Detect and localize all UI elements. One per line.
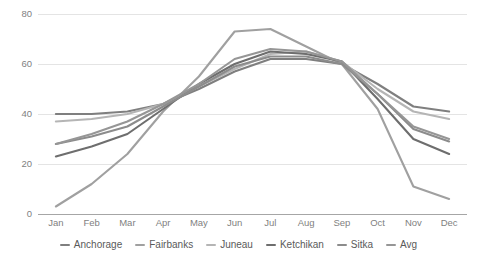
legend-item-anchorage[interactable]: Anchorage xyxy=(60,240,122,250)
x-tick-label-may: May xyxy=(179,218,219,228)
series-lines xyxy=(38,14,467,214)
legend-item-sitka[interactable]: Sitka xyxy=(337,240,373,250)
x-tick-label-apr: Apr xyxy=(143,218,183,228)
x-tick-label-jun: Jun xyxy=(215,218,255,228)
y-tick-label-80: 80 xyxy=(6,9,32,19)
series-line-sitka xyxy=(56,57,449,145)
x-axis: JanFebMarAprMayJunJulAugSepOctNovDec xyxy=(38,216,467,232)
legend-label: Avg xyxy=(400,240,417,250)
x-tick-label-feb: Feb xyxy=(72,218,112,228)
x-tick-label-sep: Sep xyxy=(322,218,362,228)
y-tick-label-40: 40 xyxy=(6,109,32,119)
legend-label: Ketchikan xyxy=(280,240,324,250)
x-tick-label-oct: Oct xyxy=(358,218,398,228)
legend-item-fairbanks[interactable]: Fairbanks xyxy=(135,240,193,250)
x-tick-label-nov: Nov xyxy=(393,218,433,228)
series-line-fairbanks xyxy=(56,29,449,207)
y-tick-label-20: 20 xyxy=(6,159,32,169)
x-tick-label-jul: Jul xyxy=(250,218,290,228)
legend-item-ketchikan[interactable]: Ketchikan xyxy=(266,240,324,250)
x-tick-label-mar: Mar xyxy=(107,218,147,228)
x-tick-label-jan: Jan xyxy=(36,218,76,228)
legend-swatch-icon xyxy=(386,244,396,246)
legend-label: Juneau xyxy=(220,240,253,250)
legend-item-juneau[interactable]: Juneau xyxy=(206,240,253,250)
line-chart: 020406080 JanFebMarAprMayJunJulAugSepOct… xyxy=(0,0,477,263)
x-tick-label-dec: Dec xyxy=(429,218,469,228)
legend-label: Anchorage xyxy=(74,240,122,250)
legend-swatch-icon xyxy=(266,244,276,246)
legend-item-avg[interactable]: Avg xyxy=(386,240,417,250)
legend-swatch-icon xyxy=(337,244,347,246)
legend-swatch-icon xyxy=(60,244,70,246)
y-tick-label-60: 60 xyxy=(6,59,32,69)
legend-swatch-icon xyxy=(206,244,216,246)
plot-area xyxy=(38,14,467,214)
legend-swatch-icon xyxy=(135,244,145,246)
chart-legend: AnchorageFairbanksJuneauKetchikanSitkaAv… xyxy=(0,240,477,250)
x-tick-label-aug: Aug xyxy=(286,218,326,228)
legend-label: Sitka xyxy=(351,240,373,250)
y-tick-label-0: 0 xyxy=(6,209,32,219)
legend-label: Fairbanks xyxy=(149,240,193,250)
axis-baseline xyxy=(38,214,467,215)
